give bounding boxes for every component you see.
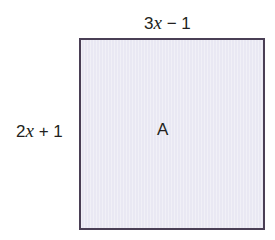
left-variable: x <box>25 120 33 141</box>
rectangle-shape <box>79 38 265 230</box>
top-side-length-label: 3x − 1 <box>144 13 191 32</box>
area-label: A <box>157 121 168 138</box>
top-variable: x <box>153 12 161 33</box>
left-constant: + 1 <box>34 122 63 141</box>
top-constant: − 1 <box>162 14 191 33</box>
left-side-length-label: 2x + 1 <box>16 121 63 140</box>
